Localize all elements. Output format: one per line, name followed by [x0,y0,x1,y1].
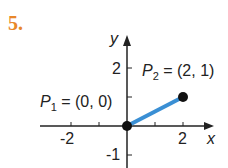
y-tick-2: 2 [112,60,121,78]
coordinate-plot [0,0,228,168]
p1-label: P1 = (0, 0) [40,93,112,113]
x-tick-2: 2 [178,130,187,148]
x-axis-label: x [207,130,215,148]
x-tick-neg2: -2 [60,130,74,148]
y-axis-label: y [110,30,118,48]
y-tick-neg1: -1 [106,146,120,164]
p2-label: P2 = (2, 1) [142,62,214,82]
